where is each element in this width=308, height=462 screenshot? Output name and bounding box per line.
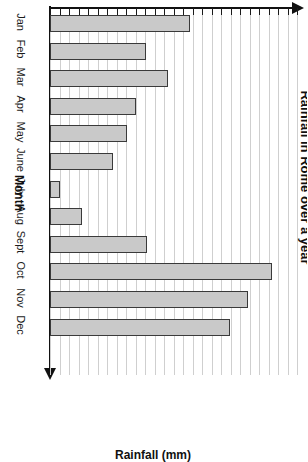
axis-tick — [126, 8, 127, 15]
gridline — [240, 8, 241, 375]
axis-tick — [193, 8, 194, 15]
axis-tick — [145, 8, 146, 15]
bar-jan — [50, 15, 190, 32]
bar-oct — [50, 263, 272, 280]
axis-tick — [212, 8, 213, 15]
axis-tick — [88, 8, 89, 15]
axis-tick — [250, 8, 251, 15]
axis-tick — [107, 8, 108, 15]
axis-tick — [69, 8, 70, 15]
gridline — [288, 8, 289, 375]
gridline — [250, 8, 251, 375]
axis-tick — [60, 8, 61, 15]
axis-tick — [136, 8, 137, 15]
month-axis-title: Month — [12, 158, 26, 228]
month-label-dec: Dec — [15, 295, 27, 355]
axis-tick — [50, 8, 51, 15]
axis-tick — [98, 8, 99, 15]
chart-title: Rainfall in Rome over a year — [298, 78, 308, 278]
axis-tick — [231, 8, 232, 15]
axis-tick — [164, 8, 165, 15]
axis-ticks — [50, 8, 300, 15]
axis-tick — [117, 8, 118, 15]
axis-tick — [269, 8, 270, 15]
bar-chart: JanFebMarAprMayJuneJulyAugSeptOctNovDec … — [0, 0, 307, 462]
axis-tick — [221, 8, 222, 15]
axis-tick — [278, 8, 279, 15]
axis-tick — [259, 8, 260, 15]
bar-may — [50, 125, 127, 142]
value-axis-title: Rainfall (mm) — [53, 448, 253, 462]
bar-feb — [50, 43, 146, 60]
axis-tick — [288, 8, 289, 15]
axis-tick — [202, 8, 203, 15]
axis-tick — [155, 8, 156, 15]
bar-nov — [50, 291, 248, 308]
plot-area — [50, 8, 300, 375]
gridline — [231, 8, 232, 375]
axis-tick — [174, 8, 175, 15]
bar-dec — [50, 319, 230, 336]
bar-aug — [50, 208, 82, 225]
bar-apr — [50, 98, 136, 115]
axis-tick — [183, 8, 184, 15]
bar-sept — [50, 236, 147, 253]
gridline — [278, 8, 279, 375]
gridline — [259, 8, 260, 375]
bar-june — [50, 153, 113, 170]
gridline — [269, 8, 270, 375]
axis-tick — [79, 8, 80, 15]
bar-july — [50, 181, 60, 198]
bar-mar — [50, 70, 168, 87]
axis-tick — [297, 8, 298, 15]
axis-tick — [240, 8, 241, 15]
